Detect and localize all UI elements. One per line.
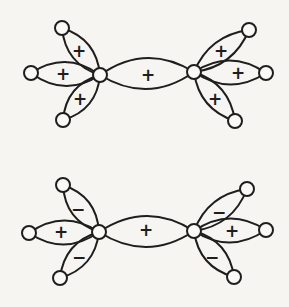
hydrogen-atom (24, 66, 38, 80)
phase-sign: − (72, 247, 86, 267)
hydrogen-atom (259, 66, 273, 80)
hydrogen-atom (56, 113, 70, 127)
hydrogen-atom (56, 178, 70, 192)
hydrogen-atom (228, 114, 242, 128)
orbital-figure-svg: ++++++++−+−−+− (0, 0, 289, 307)
hydrogen-atom (55, 21, 69, 35)
phase-sign: + (54, 222, 68, 242)
hydrogen-atom (22, 226, 36, 240)
hydrogen-atom (227, 270, 241, 284)
phase-sign: + (225, 221, 239, 241)
phase-sign: + (56, 64, 70, 84)
phase-sign: + (208, 89, 222, 109)
phase-sign: − (212, 202, 226, 222)
hydrogen-atom (240, 182, 254, 196)
hydrogen-atom (53, 271, 67, 285)
carbon-atom (187, 224, 201, 238)
orbital-diagram-top: +++++++ (24, 21, 273, 128)
phase-sign: + (231, 63, 245, 83)
hydrogen-atom (259, 223, 273, 237)
carbon-atom (92, 225, 106, 239)
phase-sign: − (205, 247, 219, 267)
phase-sign: − (71, 199, 85, 219)
phase-sign: + (72, 41, 86, 61)
phase-sign: + (139, 220, 153, 240)
hydrogen-atom (242, 23, 256, 37)
scanned-orbital-figure: ++++++++−+−−+− (0, 0, 289, 307)
carbon-atom (93, 68, 107, 82)
carbon-atom (187, 65, 201, 79)
phase-sign: + (73, 89, 87, 109)
orbital-diagram-bottom: +−+−−+− (22, 178, 273, 285)
phase-sign: + (214, 41, 228, 61)
phase-sign: + (141, 65, 155, 85)
